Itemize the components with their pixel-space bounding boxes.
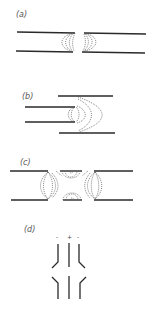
wire-a-top-left <box>17 32 75 33</box>
field-lines-b <box>68 97 102 132</box>
panel-d <box>52 243 86 299</box>
rod-d-left-upper <box>52 244 58 268</box>
panel-b <box>25 96 115 133</box>
rod-d-left-lower <box>52 277 58 299</box>
rod-d-right-upper <box>79 244 85 268</box>
wire-a-bottom-left <box>16 51 73 52</box>
panel-a <box>16 32 146 53</box>
wire-a-top-right <box>84 33 146 34</box>
wire-a-bottom-right <box>82 52 145 53</box>
rod-d-right-lower <box>80 277 86 299</box>
panel-c <box>10 171 133 200</box>
diagram-canvas <box>0 0 152 316</box>
field-lines-a <box>62 33 96 52</box>
field-lines-c <box>41 171 102 200</box>
